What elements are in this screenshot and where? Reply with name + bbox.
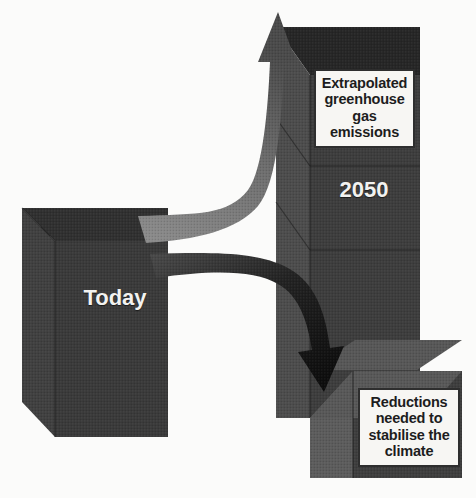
callout-reductions-line-2: needed to bbox=[363, 410, 455, 426]
emissions-infographic: Extrapolated greenhouse gas emissions Re… bbox=[0, 0, 476, 498]
callout-reductions-line-3: stabilise the bbox=[363, 427, 455, 443]
callout-emissions-line-2: greenhouse bbox=[319, 91, 410, 107]
callout-emissions-line-4: emissions bbox=[319, 124, 410, 140]
callout-reductions-line-1: Reductions bbox=[363, 394, 455, 410]
callout-reductions-line-4: climate bbox=[363, 443, 455, 459]
callout-emissions-line-3: gas bbox=[319, 108, 410, 124]
callout-emissions-line-1: Extrapolated bbox=[319, 75, 410, 91]
callout-reductions-needed: Reductions needed to stabilise the clima… bbox=[358, 388, 460, 467]
year-label-2050: 2050 bbox=[318, 177, 410, 203]
today-block-label: Today bbox=[60, 285, 170, 311]
callout-extrapolated-emissions: Extrapolated greenhouse gas emissions bbox=[314, 69, 415, 148]
